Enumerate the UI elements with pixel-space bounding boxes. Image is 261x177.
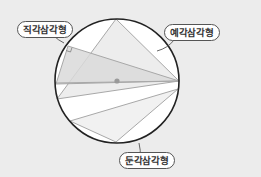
obtuse-triangle-label: 둔각삼각형 xyxy=(119,152,175,169)
center-point xyxy=(114,78,119,83)
acute-triangle-label: 예각삼각형 xyxy=(164,24,220,41)
inscribed-triangles-diagram: 직각삼각형 예각삼각형 둔각삼각형 xyxy=(0,0,261,177)
right-triangle-label: 직각삼각형 xyxy=(17,21,73,38)
